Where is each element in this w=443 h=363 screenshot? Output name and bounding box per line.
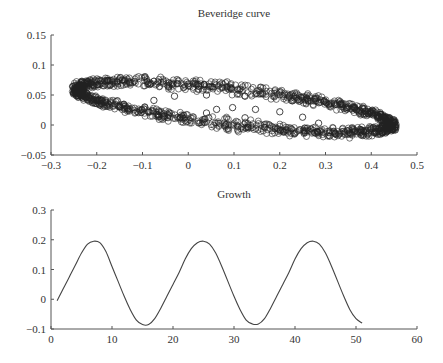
y-tick-label: 0.2 xyxy=(32,234,46,246)
growth-line xyxy=(57,241,362,325)
scatter-point xyxy=(277,109,283,115)
scatter-point xyxy=(299,114,305,120)
x-tick-label: 0.4 xyxy=(364,159,378,171)
growth-chart: Growth −0.100.10.20.30102030405060 xyxy=(26,188,423,345)
x-tick-label: 20 xyxy=(168,333,180,345)
y-tick-label: 0 xyxy=(41,293,47,305)
x-tick-label: −0.3 xyxy=(41,159,61,171)
axes: −0.100.10.20.30102030405060 xyxy=(26,204,423,345)
scatter-point xyxy=(213,106,219,112)
x-tick-label: −0.2 xyxy=(87,159,107,171)
x-tick-label: 60 xyxy=(412,333,424,345)
y-tick-label: 0.1 xyxy=(32,59,46,71)
scatter-point xyxy=(229,104,235,110)
x-tick-label: 30 xyxy=(229,333,241,345)
scatter-points xyxy=(69,74,399,142)
scatter-point xyxy=(171,93,177,99)
x-tick-label: 0.2 xyxy=(273,159,287,171)
y-tick-label: 0.05 xyxy=(27,89,47,101)
x-tick-label: 0 xyxy=(48,333,54,345)
x-tick-label: 0.1 xyxy=(227,159,241,171)
x-tick-label: 0.3 xyxy=(319,159,333,171)
y-tick-label: 0.3 xyxy=(32,204,46,216)
x-tick-label: −0.1 xyxy=(133,159,153,171)
x-tick-label: 50 xyxy=(351,333,363,345)
growth-series-line xyxy=(57,241,362,325)
chart-title: Growth xyxy=(217,188,251,200)
scatter-point xyxy=(151,97,157,103)
x-tick-label: 10 xyxy=(107,333,119,345)
y-tick-label: 0.15 xyxy=(27,29,47,41)
x-tick-label: 0 xyxy=(186,159,192,171)
x-tick-label: 0.5 xyxy=(410,159,424,171)
figure: Beveridge curve −0.0500.050.10.15−0.3−0.… xyxy=(0,0,443,363)
y-tick-label: 0.1 xyxy=(32,264,46,276)
y-tick-label: 0 xyxy=(41,119,47,131)
scatter-point xyxy=(315,120,321,126)
beveridge-curve-chart: Beveridge curve −0.0500.050.10.15−0.3−0.… xyxy=(21,7,425,171)
x-tick-label: 40 xyxy=(290,333,302,345)
y-tick-label: −0.1 xyxy=(26,323,46,335)
chart-title: Beveridge curve xyxy=(198,7,270,19)
scatter-point xyxy=(252,106,258,112)
